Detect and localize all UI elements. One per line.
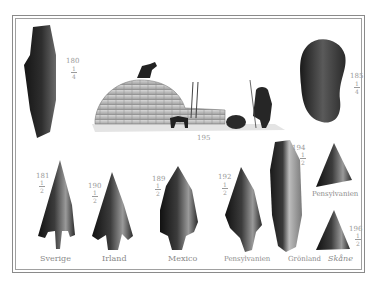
place-label-sverige: Sverige [40, 255, 71, 263]
figure-scale-180: 14 [70, 66, 78, 79]
stone-tool-figure [300, 39, 345, 122]
figure-scale-194: 12 [299, 152, 307, 165]
figure-number-180: 180 [66, 58, 79, 65]
place-label-mexico: Mexico [168, 255, 197, 263]
figure-number-185: 185 [350, 73, 363, 80]
figure-scale-192: 12 [221, 182, 229, 195]
figure-number-195: 195 [197, 135, 210, 142]
stone-axe-figure [24, 25, 56, 138]
triangle-point-pensylvanien [316, 143, 352, 187]
figure-number-192: 192 [218, 174, 231, 181]
triangle-point-skane [316, 210, 350, 250]
figure-scale-190: 12 [91, 190, 99, 203]
figure-scale-189: 12 [154, 183, 162, 196]
engraving-artwork [0, 0, 378, 284]
figure-scale-181: 12 [38, 180, 46, 193]
igloo-scene-figure [92, 62, 285, 132]
place-label-skane: Skåne [328, 255, 353, 263]
arrowhead-mexico [160, 166, 198, 250]
blade-gronland [270, 140, 302, 252]
place-label-irland: Irland [102, 255, 127, 263]
place-label-gronland: Grönland [288, 255, 321, 263]
place-label-pensylvanien: Pensylvanien [224, 255, 270, 263]
place-label-pensylvanien-triangle: Pensylvanien [312, 190, 358, 198]
figure-scale-185: 14 [353, 81, 361, 94]
figure-scale-196: 12 [354, 233, 362, 246]
